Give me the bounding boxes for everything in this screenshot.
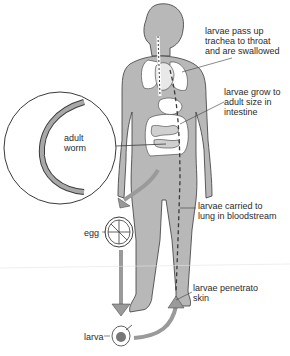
label-larva: larva (84, 332, 104, 342)
label-bloodstream: larvae carried to lung in bloodstream (198, 201, 277, 221)
label-trachea: larvae pass up trachea to throat and are… (205, 26, 280, 56)
label-adult-worm: adult worm (64, 133, 86, 153)
larva-icon (104, 325, 132, 346)
egg-icon (102, 217, 133, 247)
label-skin: larvae penetrato skin (193, 283, 258, 303)
diagram-canvas: larvae pass up trachea to throat and are… (0, 0, 290, 356)
intestine-organ (145, 114, 188, 156)
label-egg: egg (84, 228, 99, 238)
stomach-organ (158, 98, 182, 115)
arrow-larva-to-skin (134, 306, 176, 338)
lungs-organ (141, 60, 187, 91)
label-intestine: larvae grow to adult size in intestine (224, 87, 281, 117)
